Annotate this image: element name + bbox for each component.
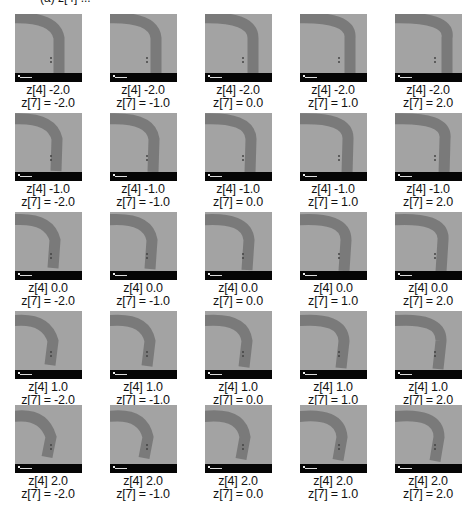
z7-label: z[7] = 1.0 bbox=[285, 295, 381, 308]
z7-label: z[7] = 0.0 bbox=[190, 488, 286, 501]
z7-label: z[7] = 0.0 bbox=[190, 295, 286, 308]
z7-label: z[7] = 1.0 bbox=[285, 196, 381, 209]
scale-bar-icon bbox=[115, 275, 127, 276]
grid-cell: z[4] 0.0 z[7] = 1.0 bbox=[285, 212, 381, 312]
scale-bar-strip bbox=[395, 172, 462, 181]
scale-bar-icon bbox=[20, 77, 32, 78]
scale-bar-icon bbox=[210, 77, 222, 78]
z7-label: z[7] = -1.0 bbox=[95, 295, 191, 308]
scale-bar-strip bbox=[205, 271, 272, 280]
scale-bar-icon bbox=[210, 374, 222, 375]
scale-bar-strip bbox=[300, 370, 367, 379]
generated-image-tile bbox=[205, 212, 272, 280]
z7-label: z[7] = -2.0 bbox=[0, 295, 96, 308]
scale-bar-strip bbox=[300, 73, 367, 82]
scale-bar-strip bbox=[395, 464, 462, 473]
z7-label: z[7] = 0.0 bbox=[190, 196, 286, 209]
grid-cell: z[4] -2.0 z[7] = 0.0 bbox=[190, 14, 286, 114]
generated-image-tile bbox=[110, 14, 177, 82]
scale-bar-icon bbox=[305, 468, 317, 469]
latent-traversal-grid: z[4] -2.0 z[7] = -2.0 z[4] -2.0 z[7] = -… bbox=[0, 0, 476, 519]
grid-cell: z[4] 2.0 z[7] = 1.0 bbox=[285, 405, 381, 505]
generated-image-tile bbox=[205, 311, 272, 379]
grid-cell: z[4] 0.0 z[7] = -2.0 bbox=[0, 212, 96, 312]
z7-label: z[7] = 0.0 bbox=[190, 97, 286, 110]
generated-image-tile bbox=[110, 212, 177, 280]
grid-cell: z[4] -2.0 z[7] = 1.0 bbox=[285, 14, 381, 114]
grid-cell: z[4] -2.0 z[7] = 2.0 bbox=[380, 14, 476, 114]
z7-label: z[7] = 1.0 bbox=[285, 488, 381, 501]
z7-label: z[7] = -2.0 bbox=[0, 97, 96, 110]
scale-bar-strip bbox=[15, 370, 82, 379]
grid-cell: z[4] 0.0 z[7] = 2.0 bbox=[380, 212, 476, 312]
grid-cell: z[4] -2.0 z[7] = -1.0 bbox=[95, 14, 191, 114]
scale-bar-strip bbox=[15, 172, 82, 181]
grid-cell: z[4] 1.0 z[7] = 0.0 bbox=[190, 311, 286, 411]
generated-image-tile bbox=[300, 14, 367, 82]
scale-bar-icon bbox=[20, 468, 32, 469]
grid-cell: z[4] -1.0 z[7] = -1.0 bbox=[95, 113, 191, 213]
grid-cell: z[4] 2.0 z[7] = 0.0 bbox=[190, 405, 286, 505]
generated-image-tile bbox=[300, 405, 367, 473]
generated-image-tile bbox=[395, 405, 462, 473]
scale-bar-icon bbox=[305, 374, 317, 375]
z7-label: z[7] = 1.0 bbox=[285, 97, 381, 110]
scale-bar-strip bbox=[110, 73, 177, 82]
scale-bar-icon bbox=[305, 176, 317, 177]
generated-image-tile bbox=[15, 311, 82, 379]
generated-image-tile bbox=[110, 311, 177, 379]
scale-bar-strip bbox=[205, 172, 272, 181]
z7-label: z[7] = 2.0 bbox=[380, 488, 476, 501]
scale-bar-strip bbox=[395, 370, 462, 379]
z7-label: z[7] = 2.0 bbox=[380, 295, 476, 308]
z7-label: z[7] = -1.0 bbox=[95, 488, 191, 501]
generated-image-tile bbox=[395, 113, 462, 181]
scale-bar-strip bbox=[205, 73, 272, 82]
scale-bar-strip bbox=[110, 370, 177, 379]
scale-bar-icon bbox=[20, 176, 32, 177]
scale-bar-icon bbox=[210, 275, 222, 276]
scale-bar-strip bbox=[110, 464, 177, 473]
scale-bar-strip bbox=[395, 73, 462, 82]
scale-bar-icon bbox=[20, 275, 32, 276]
scale-bar-strip bbox=[205, 464, 272, 473]
scale-bar-icon bbox=[400, 275, 412, 276]
scale-bar-icon bbox=[400, 176, 412, 177]
scale-bar-icon bbox=[305, 275, 317, 276]
z7-label: z[7] = 2.0 bbox=[380, 97, 476, 110]
scale-bar-strip bbox=[395, 271, 462, 280]
generated-image-tile bbox=[205, 14, 272, 82]
grid-cell: z[4] 0.0 z[7] = -1.0 bbox=[95, 212, 191, 312]
generated-image-tile bbox=[395, 14, 462, 82]
generated-image-tile bbox=[110, 405, 177, 473]
scale-bar-strip bbox=[300, 464, 367, 473]
grid-cell: z[4] 1.0 z[7] = 1.0 bbox=[285, 311, 381, 411]
grid-cell: z[4] 0.0 z[7] = 0.0 bbox=[190, 212, 286, 312]
scale-bar-icon bbox=[400, 374, 412, 375]
generated-image-tile bbox=[110, 113, 177, 181]
scale-bar-strip bbox=[15, 73, 82, 82]
grid-cell: z[4] -1.0 z[7] = 2.0 bbox=[380, 113, 476, 213]
generated-image-tile bbox=[15, 14, 82, 82]
scale-bar-strip bbox=[110, 271, 177, 280]
grid-cell: z[4] -1.0 z[7] = -2.0 bbox=[0, 113, 96, 213]
scale-bar-icon bbox=[115, 374, 127, 375]
scale-bar-strip bbox=[300, 271, 367, 280]
grid-cell: z[4] -1.0 z[7] = 1.0 bbox=[285, 113, 381, 213]
scale-bar-strip bbox=[15, 464, 82, 473]
generated-image-tile bbox=[300, 113, 367, 181]
generated-image-tile bbox=[15, 113, 82, 181]
generated-image-tile bbox=[15, 405, 82, 473]
scale-bar-icon bbox=[210, 176, 222, 177]
scale-bar-icon bbox=[305, 77, 317, 78]
generated-image-tile bbox=[395, 212, 462, 280]
z7-label: z[7] = -2.0 bbox=[0, 196, 96, 209]
scale-bar-strip bbox=[15, 271, 82, 280]
grid-cell: z[4] 1.0 z[7] = -2.0 bbox=[0, 311, 96, 411]
scale-bar-icon bbox=[400, 77, 412, 78]
generated-image-tile bbox=[300, 311, 367, 379]
grid-cell: z[4] 1.0 z[7] = 2.0 bbox=[380, 311, 476, 411]
scale-bar-icon bbox=[115, 77, 127, 78]
generated-image-tile bbox=[205, 113, 272, 181]
z7-label: z[7] = -2.0 bbox=[0, 488, 96, 501]
